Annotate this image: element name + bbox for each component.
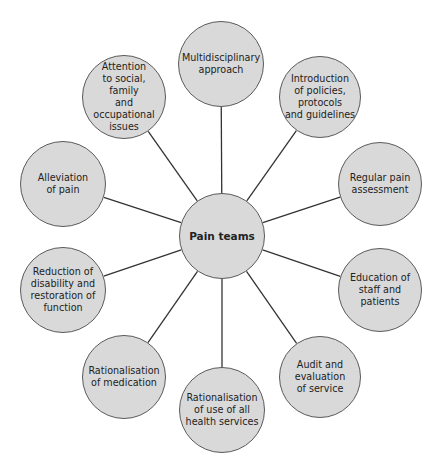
node-alleviation: Alleviation of pain [20,141,106,227]
node-label: Attention to social, family and occupati… [87,61,161,133]
node-introduction-policies: Introduction of policies, protocols and … [279,56,361,138]
center-node-pain-teams: Pain teams [179,193,265,279]
node-label: Rationalisation of medication [88,365,159,389]
node-rationalisation-medication: Rationalisation of medication [82,335,166,419]
node-rationalisation-services: Rationalisation of use of all health ser… [179,367,265,453]
node-label: Rationalisation of use of all health ser… [186,392,259,428]
node-label: Education of staff and patients [343,272,417,308]
connector-line [221,107,222,193]
center-node-label: Pain teams [189,230,255,242]
node-audit: Audit and evaluation of service [279,336,361,418]
connector-line [247,271,297,343]
node-reduction-disability: Reduction of disability and restoration … [20,247,106,333]
connector-line [148,131,197,201]
connector-line [263,250,341,277]
node-education: Education of staff and patients [338,248,422,332]
node-label: Alleviation of pain [38,172,88,196]
node-attention-social: Attention to social, family and occupati… [82,55,166,139]
connector-line [148,271,197,342]
pain-teams-diagram: Pain teams Multidisciplinary approach In… [0,0,443,473]
node-label: Reduction of disability and restoration … [31,266,96,314]
node-label: Regular pain assessment [350,172,411,196]
connector-line [104,197,181,222]
node-label: Audit and evaluation of service [295,359,345,395]
connector-line [247,131,297,201]
node-label: Introduction of policies, protocols and … [285,73,355,121]
connector-line [104,250,182,276]
node-regular-assessment: Regular pain assessment [338,142,422,226]
node-label: Multidisciplinary approach [182,52,260,76]
node-multidisciplinary: Multidisciplinary approach [178,21,264,107]
connector-line [263,197,340,222]
